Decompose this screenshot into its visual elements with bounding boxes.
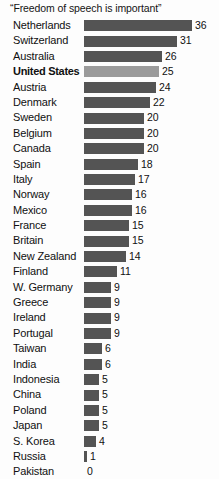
bar-value-label: 11 xyxy=(120,264,131,279)
bar-track xyxy=(84,266,117,277)
bar-row: Netherlands36 xyxy=(0,18,219,33)
bar-value-label: 15 xyxy=(132,218,143,233)
bar xyxy=(84,220,129,231)
bar-value-label: 18 xyxy=(141,157,152,172)
bar-track xyxy=(84,143,144,154)
bar-row: Norway16 xyxy=(0,187,219,202)
bar-value-label: 25 xyxy=(162,64,173,79)
bar-value-label: 1 xyxy=(90,449,96,464)
bar-track xyxy=(84,82,156,93)
bar-row: Denmark22 xyxy=(0,95,219,110)
bar-row-label: Pakistan xyxy=(13,464,54,479)
bar-track xyxy=(84,343,102,354)
bar-track xyxy=(84,51,162,62)
bar-track xyxy=(84,159,138,170)
bar-track xyxy=(84,189,132,200)
chart-title: “Freedom of speech is important” xyxy=(10,2,161,15)
bar-row-label: Poland xyxy=(13,403,46,418)
bar-value-label: 16 xyxy=(135,203,146,218)
bar-row-label: Canada xyxy=(13,141,51,156)
bar-value-label: 26 xyxy=(165,49,176,64)
bar-row-label: Ireland xyxy=(13,310,46,325)
bar-row-label: United States xyxy=(13,64,79,79)
bar-row: Australia26 xyxy=(0,49,219,64)
bar-track xyxy=(84,251,126,262)
bar-row-label: Denmark xyxy=(13,95,57,110)
bar-value-label: 5 xyxy=(102,418,108,433)
bar xyxy=(84,282,111,293)
bar-value-label: 6 xyxy=(105,341,111,356)
bar xyxy=(84,297,111,308)
bar-row: Taiwan6 xyxy=(0,341,219,356)
bar xyxy=(84,374,99,385)
bar xyxy=(84,343,102,354)
bar-row-label: New Zealand xyxy=(13,249,76,264)
bar-row: China5 xyxy=(0,387,219,402)
bar xyxy=(84,113,144,124)
bar xyxy=(84,143,144,154)
bar-row: India6 xyxy=(0,357,219,372)
bar-row-label: Mexico xyxy=(13,203,47,218)
bar-value-label: 22 xyxy=(153,95,164,110)
bar xyxy=(84,174,135,185)
bar-row: Poland5 xyxy=(0,403,219,418)
bar-track xyxy=(84,405,99,416)
bar-row: Canada20 xyxy=(0,141,219,156)
bar-track xyxy=(84,436,96,447)
bar xyxy=(84,236,129,247)
bar xyxy=(84,20,192,31)
bar-row-label: Belgium xyxy=(13,126,52,141)
bar xyxy=(84,36,177,47)
bar-row: Japan5 xyxy=(0,418,219,433)
bar-track xyxy=(84,390,99,401)
bar-track xyxy=(84,174,135,185)
bar-row: Britain15 xyxy=(0,233,219,248)
bar-track xyxy=(84,128,144,139)
bar-track xyxy=(84,328,111,339)
bar-track xyxy=(84,282,111,293)
bar-value-label: 9 xyxy=(114,310,120,325)
bar-row-label: Italy xyxy=(13,172,32,187)
bar-value-label: 9 xyxy=(114,326,120,341)
bar-row: Sweden20 xyxy=(0,110,219,125)
bar-row: Switzerland31 xyxy=(0,33,219,48)
bar xyxy=(84,205,132,216)
bar-row: Russia1 xyxy=(0,449,219,464)
bar-value-label: 20 xyxy=(147,126,158,141)
bar xyxy=(84,390,99,401)
bar-value-label: 5 xyxy=(102,372,108,387)
bar-row: Mexico16 xyxy=(0,203,219,218)
bar-row: Spain18 xyxy=(0,157,219,172)
bar-row-label: France xyxy=(13,218,46,233)
bar-row-label: Indonesia xyxy=(13,372,59,387)
bar-row-label: Austria xyxy=(13,80,46,95)
bar-row: W. Germany9 xyxy=(0,280,219,295)
bar-row: S. Korea4 xyxy=(0,434,219,449)
bar-value-label: 5 xyxy=(102,387,108,402)
bar-track xyxy=(84,97,150,108)
bar-row-label: Spain xyxy=(13,157,40,172)
bar-row-label: Netherlands xyxy=(13,18,71,33)
bar-row-label: W. Germany xyxy=(13,280,73,295)
bar-track xyxy=(84,420,99,431)
bar-row-label: Finland xyxy=(13,264,48,279)
bar-row: Portugal9 xyxy=(0,326,219,341)
bar xyxy=(84,251,126,262)
bar-row: Finland11 xyxy=(0,264,219,279)
bar xyxy=(84,313,111,324)
bar xyxy=(84,159,138,170)
bar-row-label: Australia xyxy=(13,49,54,64)
bar-row-label: China xyxy=(13,387,41,402)
bar-value-label: 20 xyxy=(147,141,158,156)
bar xyxy=(84,451,87,462)
bar-value-label: 17 xyxy=(138,172,149,187)
bar-value-label: 20 xyxy=(147,110,158,125)
bar-value-label: 14 xyxy=(129,249,140,264)
bar-track xyxy=(84,20,192,31)
bar-track xyxy=(84,66,159,77)
bar-row: France15 xyxy=(0,218,219,233)
bar-track xyxy=(84,205,132,216)
bar-track xyxy=(84,236,129,247)
bar xyxy=(84,405,99,416)
